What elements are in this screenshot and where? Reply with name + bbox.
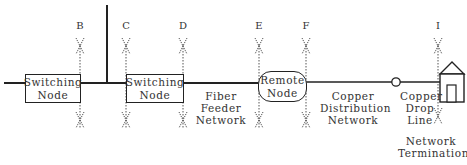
switching-node-1-line2: Node bbox=[38, 89, 69, 102]
remote-node-line2: Node bbox=[267, 87, 298, 100]
house-icon bbox=[440, 62, 464, 102]
ref-label-B: B bbox=[73, 20, 87, 31]
copper-drop-line1: Copper bbox=[400, 90, 440, 102]
remote-node: Remote Node bbox=[258, 71, 307, 102]
copper-drop-line2: Drop bbox=[400, 102, 440, 114]
switching-node-2-line2: Node bbox=[140, 89, 171, 102]
ref-label-F: F bbox=[299, 20, 313, 31]
ref-label-D: D bbox=[176, 20, 190, 31]
network-termination-label: Network Termination bbox=[398, 135, 464, 159]
splice-point-icon bbox=[392, 78, 400, 86]
switching-node-1-line1: Switching bbox=[24, 76, 83, 89]
switching-node-1: Switching Node bbox=[25, 74, 81, 103]
network-termination-line2: Termination bbox=[398, 147, 464, 159]
switching-node-2: Switching Node bbox=[126, 74, 184, 103]
copper-distribution-network-label: Copper Distribution Network bbox=[320, 90, 386, 126]
network-termination-line1: Network bbox=[398, 135, 464, 147]
copper-distribution-line2: Distribution bbox=[320, 102, 386, 114]
copper-drop-line3: Line bbox=[400, 114, 440, 126]
fiber-feeder-line2: Feeder bbox=[195, 102, 247, 114]
copper-distribution-line3: Network bbox=[320, 114, 386, 126]
fiber-feeder-line3: Network bbox=[195, 114, 247, 126]
copper-drop-line-label: Copper Drop Line bbox=[400, 90, 440, 126]
copper-distribution-line1: Copper bbox=[320, 90, 386, 102]
fiber-feeder-line1: Fiber bbox=[195, 90, 247, 102]
fiber-feeder-network-label: Fiber Feeder Network bbox=[195, 90, 247, 126]
ref-label-C: C bbox=[119, 20, 133, 31]
ref-label-I: I bbox=[431, 20, 445, 31]
remote-node-line1: Remote bbox=[260, 74, 304, 87]
switching-node-2-line1: Switching bbox=[126, 76, 185, 89]
ref-label-E: E bbox=[252, 20, 266, 31]
